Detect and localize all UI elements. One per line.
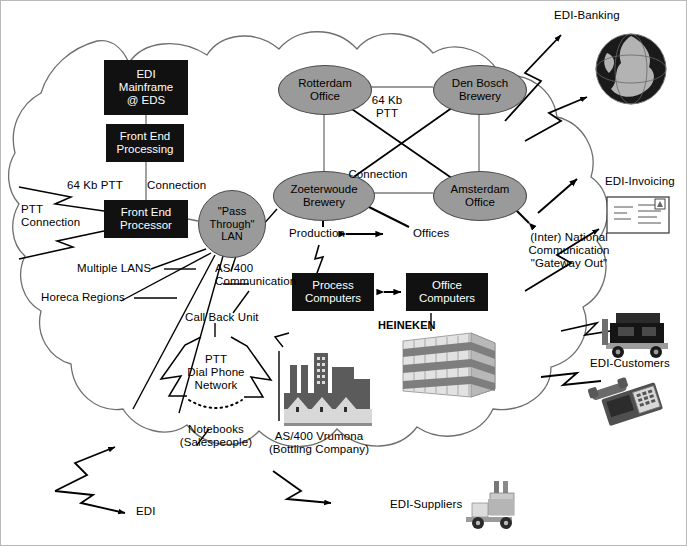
- box-front-end-processing[interactable]: Front End Processing: [106, 124, 184, 162]
- label-connection-mid: Connection: [346, 168, 410, 181]
- ptt-dial-dotted-arc: [189, 400, 242, 408]
- label-edi-invoicing: EDI-Invoicing: [605, 175, 675, 188]
- box-office-computers[interactable]: Office Computers: [406, 273, 488, 311]
- office-building-icon: [403, 333, 495, 397]
- label-call-back-unit: Call Back Unit: [185, 311, 259, 324]
- envelope-icon: [607, 197, 669, 233]
- telephone-icon: [587, 369, 663, 429]
- box-process-computers[interactable]: Process Computers: [292, 273, 374, 311]
- amsterdam-out-arrow: [538, 179, 577, 213]
- node-amsterdam-office[interactable]: Amsterdam Office: [433, 171, 527, 221]
- globe-icon: [596, 34, 666, 104]
- factory-stem-bolt: [275, 333, 289, 347]
- label-64kb-ptt-left: 64 Kb PTT: [67, 179, 123, 192]
- label-multiple-lans: Multiple LANS: [77, 262, 151, 275]
- node-pass-through-lan[interactable]: "Pass Through" LAN: [198, 190, 266, 258]
- edi-out-bolts: [55, 447, 125, 513]
- label-ptt-dial-phone-network: PTT Dial Phone Network: [181, 353, 251, 392]
- forklift-icon: [466, 481, 514, 529]
- label-as400-communication: AS/400 Communication: [215, 262, 296, 288]
- box-edi-mainframe[interactable]: EDI Mainframe @ EDS: [104, 60, 188, 115]
- label-edi-customers: EDI-Customers: [590, 357, 670, 370]
- label-gateway-out: (Inter) National Communication "Gateway …: [513, 231, 625, 270]
- label-connection-top: Connection: [147, 179, 206, 192]
- label-edi-suppliers: EDI-Suppliers: [390, 498, 462, 511]
- label-ptt-connection: PTT Connection: [21, 203, 80, 229]
- label-heineken: HEINEKEN: [378, 319, 436, 331]
- node-den-bosch-brewery[interactable]: Den Bosch Brewery: [433, 65, 527, 115]
- label-production: Production: [289, 227, 345, 240]
- label-edi: EDI: [136, 505, 155, 518]
- link-callback: [233, 291, 249, 313]
- edi-suppliers-bolt: [273, 471, 331, 503]
- label-horeca-regions: Horeca Regions: [41, 291, 125, 304]
- label-edi-banking: EDI-Banking: [554, 9, 620, 22]
- truck-icon: [602, 313, 668, 358]
- box-front-end-processor[interactable]: Front End Processor: [104, 200, 188, 238]
- label-64kb-ptt-mid: 64 Kb PTT: [361, 94, 413, 120]
- node-rotterdam-office[interactable]: Rotterdam Office: [278, 65, 372, 115]
- diagram-canvas: EDI Mainframe @ EDS Front End Processing…: [0, 0, 687, 546]
- label-as400-vrumona: AS/400 Vrumona (Bottling Company): [257, 430, 381, 456]
- link-fep-lan: [188, 219, 198, 221]
- label-offices: Offices: [413, 227, 449, 240]
- factory-icon: [284, 353, 372, 426]
